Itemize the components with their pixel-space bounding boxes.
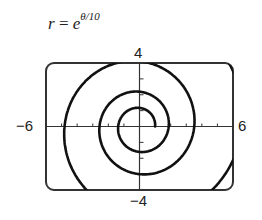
- spiral-curve: [64, 19, 242, 216]
- plot-area: [0, 0, 262, 220]
